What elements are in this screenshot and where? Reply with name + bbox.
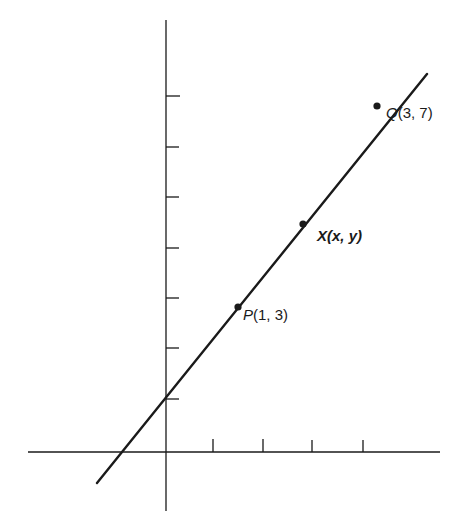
label-Q-letter: Q [386, 104, 398, 121]
label-P-letter: P [243, 306, 253, 323]
point-Q [373, 102, 380, 109]
label-P: P(1, 3) [243, 306, 288, 323]
point-P [234, 303, 241, 310]
label-P-coords: (1, 3) [253, 306, 288, 323]
y-axis-ticks [166, 96, 180, 399]
line-through-two-points-diagram: P(1, 3) X(x, y) Q(3, 7) [0, 0, 467, 522]
x-axis-ticks [213, 439, 363, 452]
label-X: X(x, y) [316, 227, 362, 244]
line-PQ [97, 74, 427, 483]
point-X [299, 220, 306, 227]
label-X-coords: (x, y) [327, 227, 362, 244]
label-Q: Q(3, 7) [386, 104, 433, 121]
label-Q-coords: (3, 7) [398, 104, 433, 121]
